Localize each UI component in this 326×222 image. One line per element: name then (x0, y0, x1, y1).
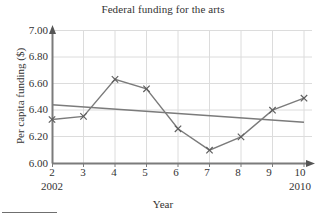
chart-figure: Federal funding for the arts Per capita … (0, 0, 326, 222)
plot-area (0, 0, 326, 222)
x-axis (52, 160, 315, 167)
page-rule-artifact (2, 212, 57, 213)
vertical-gridlines (84, 31, 305, 164)
y-axis (49, 25, 56, 164)
